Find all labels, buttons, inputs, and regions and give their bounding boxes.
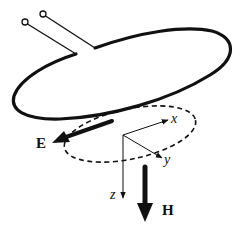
e-field-label: E — [36, 135, 46, 151]
axis-y-label: y — [162, 152, 171, 167]
axis-y-line — [123, 135, 162, 158]
feed-lead-right — [46, 16, 96, 48]
e-field-arrow — [52, 121, 112, 143]
feed-lead-left — [28, 24, 77, 54]
terminal-circle-right — [40, 11, 46, 17]
h-field-arrow — [137, 167, 153, 222]
axis-x-label: x — [170, 111, 178, 126]
terminal-circle-left — [22, 19, 28, 25]
feed-terminals — [22, 11, 95, 54]
loop-antenna — [13, 29, 230, 119]
axis-x-line — [123, 120, 168, 135]
h-field-label: H — [162, 202, 174, 218]
h-arrow-head — [137, 203, 153, 222]
e-arrow-shaft — [66, 121, 112, 137]
loop-antenna-diagram: E x y z H — [0, 0, 244, 232]
axis-z-label: z — [109, 187, 116, 202]
